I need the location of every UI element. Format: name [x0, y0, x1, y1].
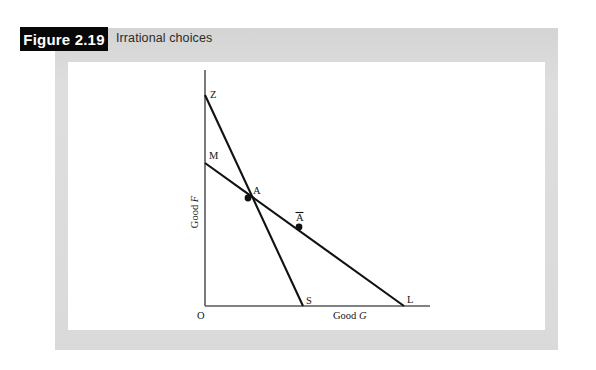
label-s: S	[306, 295, 312, 306]
y-axis-label-word: Good	[189, 204, 200, 228]
figure-container: Figure 2.19 Irrational choices Z M S L A…	[0, 0, 596, 370]
label-l: L	[407, 294, 413, 305]
label-a-bar: A	[296, 212, 304, 223]
label-a: A	[253, 185, 261, 196]
chart-plot: Z M S L A A O Good G Good F	[0, 0, 596, 370]
data-point-a	[245, 195, 252, 202]
y-axis-label-var: F	[189, 195, 200, 203]
x-axis-label: Good G	[333, 310, 367, 321]
data-point-a-bar	[296, 224, 303, 231]
x-axis-label-var: G	[359, 310, 367, 321]
y-axis-label: Good F	[189, 195, 200, 228]
label-origin: O	[197, 310, 205, 321]
budget-line-ml	[205, 163, 404, 306]
label-m: M	[209, 150, 219, 161]
label-z: Z	[210, 89, 216, 100]
budget-line-zs	[205, 95, 303, 306]
x-axis-label-word: Good	[333, 310, 357, 321]
